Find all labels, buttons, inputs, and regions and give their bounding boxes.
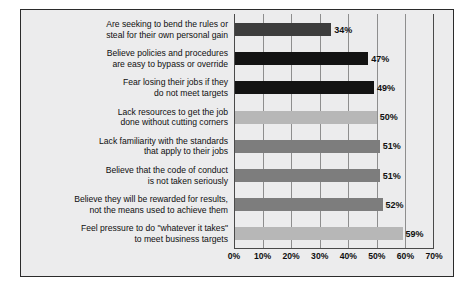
category-label-line: Lack resources to get the job — [118, 107, 228, 118]
category-label: Lack resources to get the jobdone withou… — [25, 103, 228, 132]
category-label-line: Fear losing their jobs if they — [123, 77, 228, 88]
bar-row: Believe policies and proceduresare easy … — [21, 44, 453, 73]
bar-value-label: 51% — [380, 169, 401, 182]
category-label: Believe policies and proceduresare easy … — [25, 44, 228, 73]
bar — [234, 81, 374, 94]
category-label-line: Believe that the code of conduct — [106, 165, 228, 176]
chart-panel: Are seeking to bend the rules orsteal fo… — [20, 9, 454, 277]
x-axis-ticks: 0%10%20%30%40%50%60%70% — [234, 251, 434, 265]
category-label: Are seeking to bend the rules orsteal fo… — [25, 15, 228, 44]
category-label-line: is not taken seriously — [148, 176, 228, 187]
bar-value-label: 59% — [403, 227, 424, 240]
bar-chart: Are seeking to bend the rules orsteal fo… — [21, 10, 453, 276]
bar-row: Believe they will be rewarded for result… — [21, 190, 453, 219]
bar — [234, 23, 331, 36]
bar-row: Are seeking to bend the rules orsteal fo… — [21, 15, 453, 44]
bar-row: Believe that the code of conductis not t… — [21, 161, 453, 190]
bar — [234, 111, 377, 124]
x-axis-tick-label: 50% — [368, 251, 385, 261]
category-label-line: steal for their own personal gain — [106, 30, 228, 41]
bar-value-label: 47% — [368, 52, 389, 65]
category-label-line: do not meet targets — [154, 88, 228, 99]
bar-value-label: 49% — [374, 81, 395, 94]
bar-value-label: 52% — [383, 198, 404, 211]
bar — [234, 198, 383, 211]
category-label-line: Feel pressure to do "whatever it takes" — [81, 223, 228, 234]
category-label: Believe they will be rewarded for result… — [25, 190, 228, 219]
bar-row: Lack familiarity with the standardsthat … — [21, 132, 453, 161]
category-label-line: to meet business targets — [134, 234, 228, 245]
bar — [234, 227, 403, 240]
category-label: Believe that the code of conductis not t… — [25, 161, 228, 190]
category-label: Feel pressure to do "whatever it takes"t… — [25, 219, 228, 248]
category-label-line: done without cutting corners — [121, 117, 229, 128]
x-axis-tick-label: 0% — [228, 251, 240, 261]
bar — [234, 140, 380, 153]
bar — [234, 169, 380, 182]
x-axis-tick-label: 30% — [311, 251, 328, 261]
bar-value-label: 34% — [331, 23, 352, 36]
bar-value-label: 50% — [377, 111, 398, 124]
category-label-line: Are seeking to bend the rules or — [106, 19, 228, 30]
x-axis-tick-label: 60% — [397, 251, 414, 261]
category-label-line: that apply to their jobs — [144, 146, 228, 157]
category-label-line: Believe policies and procedures — [107, 48, 228, 59]
category-label-line: are easy to bypass or override — [112, 59, 228, 70]
x-axis-tick-label: 70% — [425, 251, 442, 261]
bar-row: Feel pressure to do "whatever it takes"t… — [21, 219, 453, 248]
bar-value-label: 51% — [380, 140, 401, 153]
x-axis-tick-label: 40% — [340, 251, 357, 261]
category-label: Lack familiarity with the standardsthat … — [25, 132, 228, 161]
x-axis-tick-label: 20% — [283, 251, 300, 261]
category-label: Fear losing their jobs if theydo not mee… — [25, 73, 228, 102]
x-axis-tick-label: 10% — [254, 251, 271, 261]
bar-row: Lack resources to get the jobdone withou… — [21, 103, 453, 132]
bar — [234, 52, 368, 65]
bar-row: Fear losing their jobs if theydo not mee… — [21, 73, 453, 102]
category-label-line: Lack familiarity with the standards — [99, 136, 228, 147]
category-label-line: not the means used to achieve them — [89, 205, 228, 216]
category-label-line: Believe they will be rewarded for result… — [74, 194, 228, 205]
